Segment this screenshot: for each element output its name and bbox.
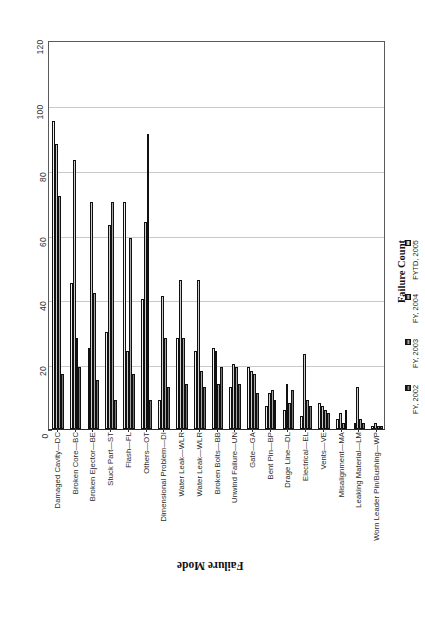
x-axis-category-label: Drage Line—DL xyxy=(281,432,293,550)
bar-group xyxy=(52,42,64,429)
bar-group xyxy=(247,42,259,429)
bar xyxy=(345,410,348,429)
x-axis-category-label: Misalignment—MA xyxy=(335,432,347,550)
bar-group xyxy=(300,42,312,429)
x-axis-category-label: Broken Ejector—BE xyxy=(86,432,98,550)
bar-group xyxy=(158,42,170,429)
bar-group xyxy=(354,42,366,429)
bar-group xyxy=(70,42,82,429)
x-axis-category-text: Vents—VE xyxy=(318,432,327,470)
bar xyxy=(274,400,277,429)
bar xyxy=(147,134,150,429)
x-axis-category-label: Broken Core—BC xyxy=(69,432,81,550)
bar xyxy=(203,387,206,429)
bar xyxy=(96,380,99,429)
x-axis-category-text: Others—OT xyxy=(141,432,150,474)
x-axis-category-label: Electrical—EL xyxy=(299,432,311,550)
x-axis-category-label: Bent Pin—BP xyxy=(264,432,276,550)
x-axis-category-text: Drage Line—DL xyxy=(283,432,292,488)
x-axis-category-label: Flash—FL xyxy=(122,432,134,550)
bar-series-container xyxy=(49,42,385,429)
x-axis-category-text: Broken Core—BC xyxy=(70,432,79,494)
y-axis-tick-label: 20 xyxy=(18,360,48,370)
x-axis-title-text: Failure Mode xyxy=(177,560,244,572)
x-axis-category-text: Electrical—EL xyxy=(301,432,310,481)
x-axis-category-label: Leaking Material—LM xyxy=(352,432,364,550)
x-axis-category-text: Stuck Part—ST xyxy=(106,432,115,486)
x-axis-category-text: Unwind Failure—UN xyxy=(230,432,239,503)
bar xyxy=(238,384,241,429)
legend-label: FYTD, 2005 xyxy=(411,240,420,280)
x-axis-category-label: Stuck Part—ST xyxy=(104,432,116,550)
bar xyxy=(185,384,188,429)
bar xyxy=(111,202,114,429)
legend-label: FY, 2002 xyxy=(411,385,420,414)
x-axis-category-label: Others—OT xyxy=(140,432,152,550)
bar-group xyxy=(229,42,241,429)
y-axis-tick-value: 100 xyxy=(36,104,46,119)
y-axis: 020406080100120 xyxy=(18,41,48,430)
plot-area xyxy=(48,41,385,430)
x-axis-category-text: Worn Leader Pin/Bushing—WP xyxy=(372,432,381,541)
y-axis-tick-value: 40 xyxy=(38,301,48,311)
bar xyxy=(149,400,152,429)
bar xyxy=(167,387,170,429)
bar xyxy=(78,367,81,429)
x-axis-category-text: Misalignment—MA xyxy=(336,432,345,497)
y-axis-tick-value: 60 xyxy=(38,237,48,247)
bar-group xyxy=(318,42,330,429)
bar xyxy=(114,400,117,429)
x-axis-category-text: Leaking Material—LM xyxy=(354,432,363,508)
bar-group xyxy=(265,42,277,429)
bar xyxy=(309,406,312,429)
x-axis-title: Failure Mode xyxy=(110,556,310,580)
x-axis-category-text: Gate—GA xyxy=(247,432,256,468)
x-axis-category-labels: Damaged Cavity—DCBroken Core—BCBroken Ej… xyxy=(48,432,385,552)
x-axis-category-text: Broken Ejector—BE xyxy=(88,432,97,501)
legend-items: FYTD, 2005FY, 2004FY, 2003FY, 2002 xyxy=(404,240,420,430)
x-axis-category-text: Broken Bolts—BB xyxy=(212,432,221,494)
bar-group xyxy=(141,42,153,429)
bar xyxy=(327,413,330,429)
x-axis-category-text: Water Leak—WLR xyxy=(177,432,186,496)
y-axis-tick-label: 80 xyxy=(18,166,48,176)
bar-group xyxy=(88,42,100,429)
bar xyxy=(256,393,259,429)
bar-group xyxy=(194,42,206,429)
x-axis-category-text: Damaged Cavity—DC xyxy=(52,432,61,508)
x-axis-category-label: Dimensional Problem—DI xyxy=(157,432,169,550)
bar xyxy=(220,367,223,429)
x-axis-category-text: Dimensional Problem—DI xyxy=(159,432,168,522)
legend: Failure Count FYTD, 2005FY, 2004FY, 2003… xyxy=(392,200,422,500)
x-axis-category-label: Broken Bolts—BB xyxy=(211,432,223,550)
bar-group xyxy=(176,42,188,429)
bar-group xyxy=(336,42,348,429)
y-axis-tick-label: 0 xyxy=(18,425,48,435)
bar xyxy=(132,374,135,429)
y-axis-tick-value: 80 xyxy=(38,172,48,182)
x-axis-category-text: Bent Pin—BP xyxy=(265,432,274,480)
y-axis-tick-label: 40 xyxy=(18,295,48,305)
y-axis-tick-value: 20 xyxy=(38,366,48,376)
y-axis-tick-label: 120 xyxy=(18,36,48,46)
bar xyxy=(61,374,64,429)
bar-group xyxy=(283,42,295,429)
x-axis-category-label: Water Leak—WLR xyxy=(175,432,187,550)
x-axis-category-text: Water Leak—WLR xyxy=(194,432,203,496)
bar xyxy=(380,426,383,429)
bar-group xyxy=(123,42,135,429)
x-axis-category-label: Worn Leader Pin/Bushing—WP xyxy=(370,432,382,550)
y-axis-tick-value: 120 xyxy=(36,40,46,55)
bar xyxy=(362,423,365,429)
bar-group xyxy=(371,42,383,429)
x-axis-category-text: Flash—FL xyxy=(123,432,132,468)
y-axis-tick-label: 60 xyxy=(18,231,48,241)
x-axis-category-label: Damaged Cavity—DC xyxy=(51,432,63,550)
bar xyxy=(291,390,294,429)
bar-group xyxy=(105,42,117,429)
x-axis-category-label: Vents—VE xyxy=(317,432,329,550)
y-axis-tick-label: 100 xyxy=(18,101,48,111)
x-axis-category-label: Water Leak—WLR xyxy=(193,432,205,550)
bar-group xyxy=(212,42,224,429)
legend-label: FY, 2004 xyxy=(411,294,420,323)
